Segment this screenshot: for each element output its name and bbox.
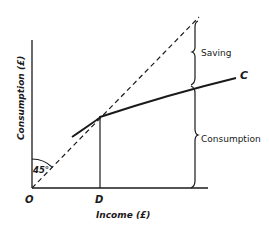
origin-label: O xyxy=(25,194,34,205)
curve-label-c: C xyxy=(240,69,248,82)
forty-five-degree-line xyxy=(32,17,199,188)
d-label: D xyxy=(95,194,103,205)
saving-label: Saving xyxy=(201,48,231,58)
saving-brace xyxy=(191,21,198,85)
consumption-diagram: Saving Consumption C O D Income (£) 45° … xyxy=(0,0,269,236)
y-axis-label: Consumption (£) xyxy=(16,56,26,140)
consumption-brace xyxy=(191,86,198,188)
consumption-brace-label: Consumption xyxy=(201,134,261,144)
consumption-curve-c xyxy=(72,78,236,137)
angle-label: 45° xyxy=(32,165,49,175)
x-axis-label: Income (£) xyxy=(96,210,150,220)
